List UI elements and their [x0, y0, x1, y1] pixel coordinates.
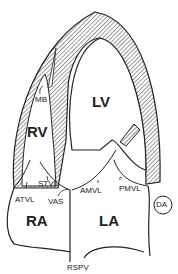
label-la: LA [99, 213, 119, 228]
la-floor [84, 247, 144, 258]
label-mb: MB [35, 96, 47, 104]
label-ra: RA [26, 213, 48, 228]
label-pmvl: PMVL [119, 185, 141, 193]
label-rv: RV [27, 124, 48, 139]
label-lv: LV [92, 94, 110, 109]
pmvl-arrow-icon [120, 177, 122, 180]
label-vas: VAS [48, 198, 63, 206]
label-rspv: RSPV [67, 264, 89, 272]
label-amvl: AMVL [80, 187, 102, 195]
la-outline [148, 186, 150, 256]
vas-arrow-icon [58, 189, 68, 196]
label-stvl: STVL [38, 180, 58, 188]
mitral-left [72, 150, 116, 190]
label-da: DA [156, 201, 167, 209]
label-atvl: ATVL [15, 196, 34, 204]
